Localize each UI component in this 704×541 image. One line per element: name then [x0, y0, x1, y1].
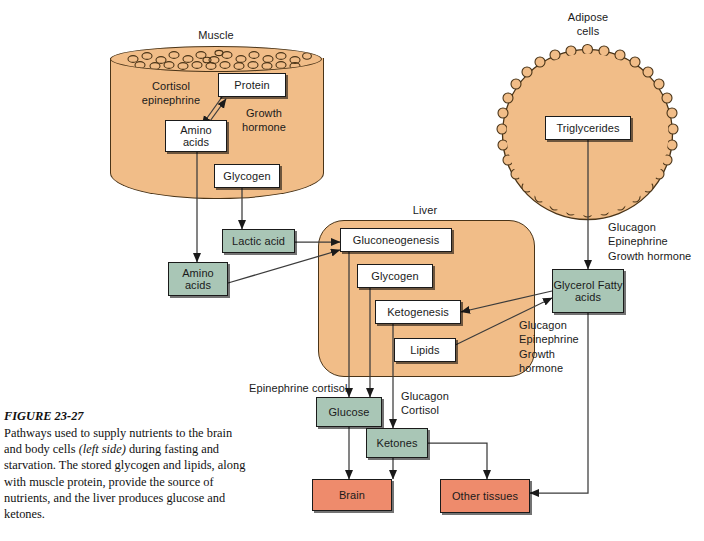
figure-canvas: Muscle Liver Adipose cells Cortisol epin…: [0, 0, 704, 541]
node-brain[interactable]: Brain: [312, 479, 392, 511]
node-protein[interactable]: Protein: [218, 73, 286, 97]
muscle-title: Muscle: [176, 28, 256, 42]
label-adipose-hormones: Glucagon Epinephrine Growth hormone: [608, 220, 704, 263]
node-lipids[interactable]: Lipids: [394, 338, 456, 362]
liver-title: Liver: [385, 203, 465, 217]
node-triglycerides[interactable]: Triglycerides: [545, 116, 631, 140]
node-amino-acids-blood[interactable]: Amino acids: [168, 262, 228, 296]
edge-ketones-to-othertissues: [428, 443, 487, 479]
figure-number: FIGURE 23-27: [4, 408, 248, 424]
node-ketogenesis[interactable]: Ketogenesis: [375, 300, 461, 324]
label-growth-hormone-muscle: Growth hormone: [232, 106, 296, 135]
label-glucagon-cortisol-ketones: Glucagon Cortisol: [401, 389, 481, 418]
node-amino-acids-muscle[interactable]: Amino acids: [165, 120, 227, 152]
node-other-tissues[interactable]: Other tissues: [440, 479, 530, 513]
figure-caption: FIGURE 23-27 Pathways used to supply nut…: [4, 408, 248, 522]
adipose-title: Adipose cells: [548, 10, 628, 39]
node-glucose[interactable]: Glucose: [316, 397, 382, 427]
node-glycerol-fatty-acids[interactable]: Glycerol Fatty acids: [552, 269, 624, 313]
muscle-fiber-circles: [111, 47, 322, 72]
label-liver-lipolysis-hormones: Glucagon Epinephrine Growth hormone: [519, 318, 609, 375]
node-ketones[interactable]: Ketones: [366, 428, 428, 458]
node-lactic-acid[interactable]: Lactic acid: [222, 229, 295, 253]
muscle-cylinder-top: [110, 46, 322, 72]
caption-emphasis: (left side): [79, 442, 126, 456]
label-cortisol-epinephrine-muscle: Cortisol epinephrine: [131, 79, 211, 108]
node-gluconeogenesis[interactable]: Gluconeogenesis: [340, 228, 452, 252]
node-glycogen-liver[interactable]: Glycogen: [357, 264, 433, 288]
label-epinephrine-cortisol-glucose: Epinephrine cortisol: [249, 381, 399, 395]
node-glycogen-muscle[interactable]: Glycogen: [214, 164, 280, 188]
